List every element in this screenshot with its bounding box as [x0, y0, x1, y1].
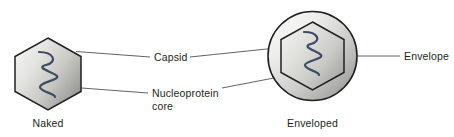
label-nucleoprotein-line2: core — [152, 100, 173, 112]
diagram-canvas: Capsid Nucleoprotein core Envelope Naked… — [0, 0, 454, 137]
naked-virion — [15, 38, 81, 110]
label-envelope: Envelope — [404, 50, 449, 62]
leader-line-capsid-left — [76, 52, 150, 58]
caption-naked: Naked — [32, 117, 63, 129]
virus-structure-diagram: Capsid Nucleoprotein core Envelope Naked… — [0, 0, 454, 137]
caption-enveloped: Enveloped — [287, 117, 338, 129]
enveloped-virion — [268, 12, 357, 101]
label-capsid: Capsid — [154, 51, 188, 63]
naked-capsid-hexagon — [15, 38, 81, 110]
label-nucleoprotein-line1: Nucleoprotein — [152, 87, 219, 99]
